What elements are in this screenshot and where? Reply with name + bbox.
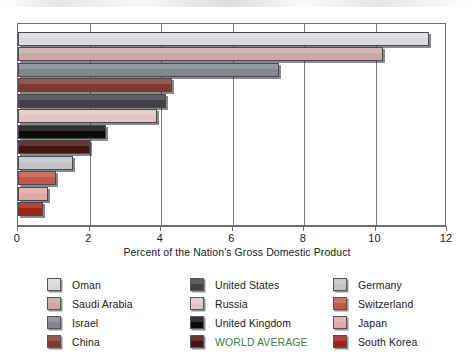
legend-swatch	[190, 278, 204, 291]
legend-item[interactable]: Saudi Arabia	[47, 295, 133, 312]
legend-swatch	[47, 297, 61, 310]
legend-swatch-sheen	[48, 279, 60, 284]
bar	[18, 47, 383, 61]
x-tick-label: 8	[300, 232, 306, 244]
legend-swatch-sheen	[334, 279, 346, 284]
bar-sheen	[19, 33, 428, 38]
legend-item[interactable]: United Kingdom	[190, 314, 291, 331]
legend-swatch	[190, 335, 204, 348]
x-tick-mark	[232, 226, 233, 231]
legend-swatch	[333, 335, 347, 348]
legend-label: United Kingdom	[215, 317, 291, 329]
bar	[18, 156, 73, 170]
legend-swatch	[333, 297, 347, 310]
bar	[18, 109, 157, 123]
bar	[18, 202, 43, 216]
bar-sheen	[19, 110, 156, 115]
legend-item[interactable]: Israel	[47, 314, 98, 331]
legend-swatch-sheen	[48, 298, 60, 303]
bar	[18, 32, 429, 46]
bar	[18, 63, 279, 77]
legend-item[interactable]: China	[47, 333, 100, 350]
x-tick-label: 10	[368, 232, 381, 244]
legend-item[interactable]: United States	[190, 276, 279, 293]
legend-swatch	[190, 297, 204, 310]
legend-label: Saudi Arabia	[72, 298, 133, 310]
x-tick-label: 0	[14, 232, 20, 244]
legend-swatch-sheen	[48, 336, 60, 341]
legend-label: Russia	[215, 298, 248, 310]
legend-swatch	[190, 316, 204, 329]
legend-label: South Korea	[358, 336, 417, 348]
bar-sheen	[19, 48, 382, 53]
bar-chart-figure: 024681012 Percent of the Nation's Gross …	[0, 0, 474, 355]
legend-item[interactable]: Switzerland	[333, 295, 413, 312]
legend: OmanSaudi ArabiaIsraelChinaUnited States…	[47, 276, 467, 352]
bar	[18, 140, 90, 154]
bar	[18, 125, 106, 139]
legend-item[interactable]: Germany	[333, 276, 402, 293]
x-tick-mark	[446, 226, 447, 231]
x-tick-label: 12	[440, 232, 453, 244]
legend-swatch	[47, 278, 61, 291]
x-tick-label: 6	[228, 232, 234, 244]
scan-artifact	[0, 0, 474, 7]
bar	[18, 171, 56, 185]
plot-area	[17, 23, 446, 226]
x-axis-title: Percent of the Nation's Gross Domestic P…	[0, 246, 474, 258]
legend-swatch	[47, 316, 61, 329]
x-tick-mark	[303, 226, 304, 231]
legend-label: United States	[215, 279, 279, 291]
bar	[18, 94, 166, 108]
x-tick-label: 4	[157, 232, 163, 244]
legend-label: Oman	[72, 279, 101, 291]
legend-item[interactable]: Japan	[333, 314, 387, 331]
bar-sheen	[19, 157, 72, 162]
bar-sheen	[19, 188, 47, 193]
legend-swatch-sheen	[191, 317, 203, 322]
legend-item[interactable]: WORLD AVERAGE	[190, 333, 308, 350]
bar	[18, 187, 48, 201]
x-tick-mark	[17, 226, 18, 231]
bar-sheen	[19, 79, 171, 84]
legend-label: China	[72, 336, 100, 348]
bar	[18, 78, 172, 92]
x-tick-label: 2	[85, 232, 91, 244]
bar-sheen	[19, 172, 55, 177]
legend-swatch-sheen	[48, 317, 60, 322]
bar-sheen	[19, 141, 89, 146]
legend-item[interactable]: Oman	[47, 276, 101, 293]
legend-item[interactable]: Russia	[190, 295, 248, 312]
legend-swatch-sheen	[334, 298, 346, 303]
x-tick-mark	[375, 226, 376, 231]
legend-swatch-sheen	[191, 279, 203, 284]
bars-layer	[18, 24, 445, 225]
bar-sheen	[19, 64, 278, 69]
bar-sheen	[19, 95, 165, 100]
legend-label: Israel	[72, 317, 98, 329]
legend-swatch	[333, 278, 347, 291]
legend-item[interactable]: South Korea	[333, 333, 417, 350]
legend-label: Switzerland	[358, 298, 413, 310]
bar-sheen	[19, 203, 42, 208]
x-tick-mark	[89, 226, 90, 231]
legend-label: Germany	[358, 279, 402, 291]
legend-label: Japan	[358, 317, 387, 329]
x-tick-mark	[160, 226, 161, 231]
legend-swatch-sheen	[191, 298, 203, 303]
legend-swatch-sheen	[334, 317, 346, 322]
legend-swatch	[47, 335, 61, 348]
bar-sheen	[19, 126, 105, 131]
legend-label: WORLD AVERAGE	[215, 336, 308, 348]
legend-swatch	[333, 316, 347, 329]
legend-swatch-sheen	[334, 336, 346, 341]
legend-swatch-sheen	[191, 336, 203, 341]
